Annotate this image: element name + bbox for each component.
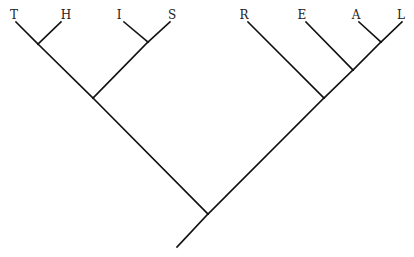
branch-r	[248, 22, 324, 98]
leaf-label-h: H	[61, 8, 71, 22]
branch-h	[38, 22, 61, 44]
branch-real	[208, 98, 324, 214]
branches	[16, 22, 402, 247]
leaf-label-t: T	[10, 8, 18, 22]
leaf-label-s: S	[168, 8, 176, 22]
leaf-label-r: R	[239, 8, 249, 22]
branch-al	[353, 42, 381, 70]
branch-i	[124, 22, 148, 42]
leaf-label-i: I	[117, 8, 122, 22]
leaf-labels: T H I S R E A L	[10, 8, 405, 22]
branch-a	[359, 22, 381, 42]
leaf-label-e: E	[298, 8, 307, 22]
branch-t	[16, 22, 38, 44]
branch-e	[306, 22, 353, 70]
leaf-label-a: A	[351, 8, 361, 22]
cladogram: T H I S R E A L	[0, 0, 414, 257]
branch-s	[148, 22, 170, 42]
branch-l	[381, 22, 402, 42]
branch-this	[93, 98, 208, 214]
branch-eal	[324, 70, 353, 98]
branch-is	[93, 42, 148, 98]
leaf-label-l: L	[397, 8, 405, 22]
branch-root	[177, 214, 208, 247]
branch-th	[38, 44, 93, 98]
